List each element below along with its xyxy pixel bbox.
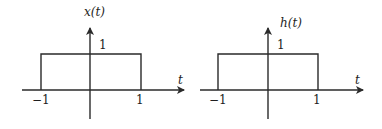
tick-label-neg: −1 [209,93,227,107]
tick-label-pos: 1 [136,93,144,107]
rect-pulse [41,54,141,90]
amplitude-label: 1 [99,38,107,52]
tick-label-pos: 1 [313,93,321,107]
plot-h-of-t: h(t) 1 t −1 1 [200,16,363,119]
diagram-canvas: x(t) 1 t −1 1 h(t) 1 t −1 1 [0,0,382,129]
x-axis-label: t [355,73,360,87]
x-axis-label: t [178,73,183,87]
tick-label-neg: −1 [32,93,50,107]
plot-x-of-t: x(t) 1 t −1 1 [22,5,184,119]
y-axis-label: x(t) [84,5,105,19]
y-axis-label: h(t) [280,16,302,30]
amplitude-label: 1 [277,38,285,52]
